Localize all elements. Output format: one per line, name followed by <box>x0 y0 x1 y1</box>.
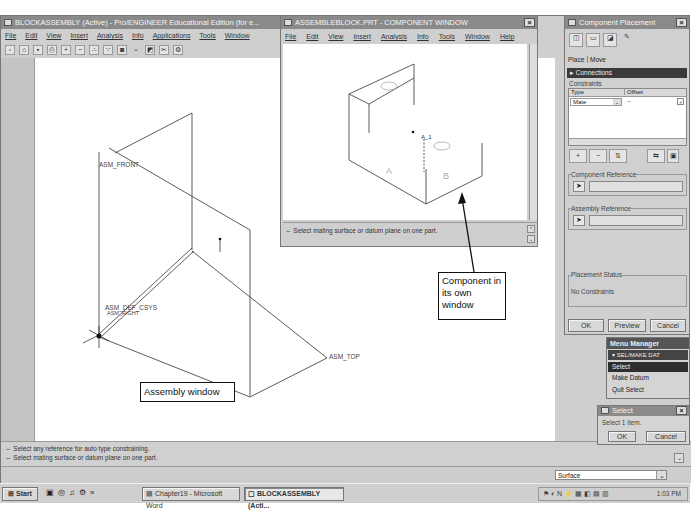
constraint-type-dropdown[interactable]: Mate⌄ <box>570 98 622 106</box>
placement-status-value: No Constraints <box>571 288 614 295</box>
table-hscroll[interactable] <box>569 138 686 145</box>
repaint-icon[interactable]: ∴ <box>89 45 99 55</box>
desktop-icon[interactable]: ▣ <box>46 488 54 497</box>
component-reference-picker[interactable]: ➤ <box>573 181 585 192</box>
menu-item-quit-select[interactable]: Quit Select <box>612 386 644 393</box>
more-icon[interactable]: » <box>90 488 94 497</box>
connections-bar[interactable]: ▸ Connections <box>567 68 687 78</box>
menu-insert[interactable]: Insert <box>353 31 371 42</box>
assembly-reference-picker[interactable]: ➤ <box>573 215 585 226</box>
selection-filter-dropdown[interactable]: Surface ⌄ <box>555 470 667 480</box>
media-icon[interactable]: ♫ <box>69 488 75 497</box>
model-tree-icon[interactable]: ⚙ <box>173 45 183 55</box>
menu-window[interactable]: Window <box>465 31 490 42</box>
open-icon[interactable]: ⌂ <box>19 45 29 55</box>
tab-move[interactable]: Move <box>587 56 606 63</box>
scroll-up-icon[interactable]: ⌃ <box>527 225 535 233</box>
constraint-offset[interactable]: -- <box>627 98 631 104</box>
assembly-titlebar[interactable]: BLOCKASSEMBLY (Active) - Pro/ENGINEER Ed… <box>1 16 281 29</box>
settings-icon[interactable]: ⚙ <box>79 488 86 497</box>
assembly-toolbar: ▫ ⌂ ▪ ⎙ + − ∴ ∵ ◙ ⌄ ◩ ✂ ⚙ <box>1 43 281 57</box>
assembly-reference-field[interactable] <box>589 215 683 226</box>
find-icon[interactable]: ◙ <box>117 45 127 55</box>
menu-view[interactable]: View <box>46 30 61 41</box>
menu-info[interactable]: Info <box>132 30 144 41</box>
close-icon[interactable]: × <box>676 18 687 27</box>
menu-analysis[interactable]: Analysis <box>381 31 407 42</box>
menu-edit[interactable]: Edit <box>25 30 37 41</box>
swap-icon[interactable]: ⇆ <box>647 149 665 163</box>
menu-help[interactable]: Help <box>500 31 514 42</box>
select-titlebar[interactable]: Select × <box>598 406 689 416</box>
chevron-down-icon: ⌄ <box>656 471 666 479</box>
filter-value: Surface <box>558 472 580 479</box>
menu-edit[interactable]: Edit <box>306 31 318 42</box>
dropdown-icon[interactable]: ⌄ <box>131 45 141 55</box>
callout-arrow <box>440 190 520 280</box>
select-ok-button[interactable]: OK <box>608 431 636 442</box>
assembly-message-area: ⇔ Select any reference for auto type con… <box>1 441 691 466</box>
new-icon[interactable]: ▫ <box>5 45 15 55</box>
column-offset: Offset <box>624 89 643 95</box>
component-reference-field[interactable] <box>589 181 683 192</box>
datum-icon[interactable]: ∵ <box>103 45 113 55</box>
menu-item-select[interactable]: Select <box>608 362 688 372</box>
menu-tools[interactable]: Tools <box>439 31 455 42</box>
component-message: ⇔ Select mating surface or datum plane o… <box>285 227 437 234</box>
cancel-button[interactable]: Cancel <box>650 319 686 332</box>
constraint-icon[interactable]: ◫ <box>569 33 583 47</box>
face-a-label: A <box>386 166 392 176</box>
spacer <box>629 149 645 163</box>
constraints-label: Constraints <box>569 80 602 87</box>
menu-insert[interactable]: Insert <box>70 30 88 41</box>
separate-window-icon[interactable]: ◪ <box>603 33 617 47</box>
component-vscroll[interactable] <box>529 44 537 220</box>
menu-applications[interactable]: Applications <box>153 30 191 41</box>
preview-button[interactable]: Preview <box>608 319 646 332</box>
task-blockassembly[interactable]: ▢ BLOCKASSEMBLY (Acti... <box>244 487 344 501</box>
zoom-out-icon[interactable]: − <box>75 45 85 55</box>
auto-icon[interactable]: ✎ <box>620 33 634 47</box>
menu-tools[interactable]: Tools <box>199 30 215 41</box>
model-tree-strip[interactable] <box>1 58 35 441</box>
column-type: Type <box>571 89 584 95</box>
sketch-icon[interactable]: ◩ <box>145 45 155 55</box>
tab-place[interactable]: Place <box>568 56 584 63</box>
face-b-label: B <box>443 171 449 181</box>
menu-view[interactable]: View <box>328 31 343 42</box>
zoom-in-icon[interactable]: + <box>61 45 71 55</box>
window-icon[interactable]: ▭ <box>586 33 600 47</box>
proe-app-icon <box>284 19 292 26</box>
ok-button[interactable]: OK <box>568 319 604 332</box>
print-icon[interactable]: ⎙ <box>47 45 57 55</box>
constraint-buttons: + − ⇅ ⇆ ▣ <box>569 149 679 163</box>
task-word[interactable]: ▤ Chapter19 - Microsoft Word <box>142 487 240 501</box>
placement-titlebar[interactable]: Component Placement × <box>565 16 689 29</box>
menu-manager-header[interactable]: ▾ SEL/MAKE DAT <box>608 350 688 360</box>
menu-manager: Menu Manager ▾ SEL/MAKE DAT Select Make … <box>606 337 690 399</box>
close-icon[interactable]: × <box>676 406 687 415</box>
save-icon[interactable]: ▪ <box>33 45 43 55</box>
tray-icons[interactable]: ⚑ ◐ N ⚡ ▦ ◧ ▤ ▥ <box>543 490 609 497</box>
checkbox-icon[interactable]: ✓ <box>677 98 684 105</box>
cut-icon[interactable]: ✂ <box>159 45 169 55</box>
menu-file[interactable]: File <box>285 31 296 42</box>
constraint-row[interactable]: Mate⌄ -- ✓ <box>569 98 686 107</box>
remove-constraint-button[interactable]: − <box>589 149 607 163</box>
add-constraint-button[interactable]: + <box>569 149 587 163</box>
flip-icon[interactable]: ⇅ <box>609 149 627 163</box>
scroll-down-icon[interactable]: ⌄ <box>527 235 535 243</box>
component-placement-dialog: Component Placement × ◫ ▭ ◪ ✎ Place Move… <box>564 15 690 335</box>
menu-file[interactable]: File <box>5 30 16 41</box>
message-scroll-down[interactable]: ⌄ <box>674 453 684 463</box>
start-button[interactable]: ⊞ Start <box>2 487 38 501</box>
info-icon[interactable]: ▣ <box>667 149 679 163</box>
select-cancel-button[interactable]: Cancel <box>646 431 686 442</box>
menu-analysis[interactable]: Analysis <box>97 30 123 41</box>
menu-item-make-datum[interactable]: Make Datum <box>612 374 649 381</box>
menu-window[interactable]: Window <box>225 30 250 41</box>
browser-icon[interactable]: ◎ <box>58 488 65 497</box>
menu-info[interactable]: Info <box>417 31 429 42</box>
component-titlebar[interactable]: ASSEMBLEBLOCK.PRT - COMPONENT WINDOW × <box>281 16 537 29</box>
close-icon[interactable]: × <box>524 18 535 27</box>
